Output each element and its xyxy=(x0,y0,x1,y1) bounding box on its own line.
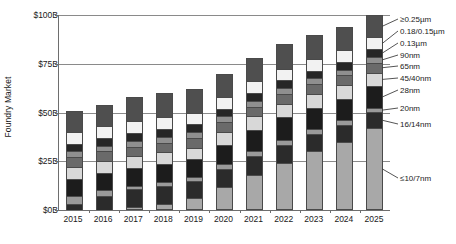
legend-label-5[interactable]: 45/40nm xyxy=(400,74,431,83)
x-axis-tick-label-2025: 2025 xyxy=(364,214,383,224)
x-axis-tick-label-2022: 2022 xyxy=(274,214,293,224)
x-axis-tick-labels: 2015201620172018201920202021202220232024… xyxy=(58,0,398,244)
x-axis-tick-label-2020: 2020 xyxy=(214,214,233,224)
x-axis-tick-label-2018: 2018 xyxy=(154,214,173,224)
x-axis-tick-label-2016: 2016 xyxy=(94,214,113,224)
x-axis-tick-label-2023: 2023 xyxy=(304,214,323,224)
legend-label-6[interactable]: 28nm xyxy=(400,86,420,95)
x-axis-tick-label-2021: 2021 xyxy=(244,214,263,224)
y-axis-tick-label: $0B xyxy=(14,205,58,215)
legend-label-2[interactable]: 0.13µm xyxy=(400,39,427,48)
legend-label-8[interactable]: 16/14nm xyxy=(400,120,431,129)
y-axis-tick-label: $25B xyxy=(14,156,58,166)
y-axis-tick-label: $100B xyxy=(14,10,58,20)
stacked-bar-chart: Foundry Market $0B$25B$50B$75B$100B 2015… xyxy=(0,0,456,244)
legend-label-1[interactable]: 0.18/0.15µm xyxy=(400,27,445,36)
y-axis-tick-label: $50B xyxy=(14,108,58,118)
legend-label-9[interactable]: ≤10/7nm xyxy=(400,174,431,183)
x-axis-tick-label-2019: 2019 xyxy=(184,214,203,224)
legend-label-0[interactable]: ≥0.25µm xyxy=(400,15,431,24)
y-axis-tick-labels: $0B$25B$50B$75B$100B xyxy=(12,0,58,244)
x-axis-tick-label-2015: 2015 xyxy=(64,214,83,224)
legend-label-4[interactable]: 65nm xyxy=(400,62,420,71)
legend-label-7[interactable]: 20nm xyxy=(400,104,420,113)
legend-label-3[interactable]: 90nm xyxy=(400,51,420,60)
x-axis-tick-label-2024: 2024 xyxy=(334,214,353,224)
x-axis-tick-label-2017: 2017 xyxy=(124,214,143,224)
y-axis-tick-label: $75B xyxy=(14,59,58,69)
chart-legend: ≥0.25µm0.18/0.15µm0.13µm90nm65nm45/40nm2… xyxy=(389,0,456,244)
